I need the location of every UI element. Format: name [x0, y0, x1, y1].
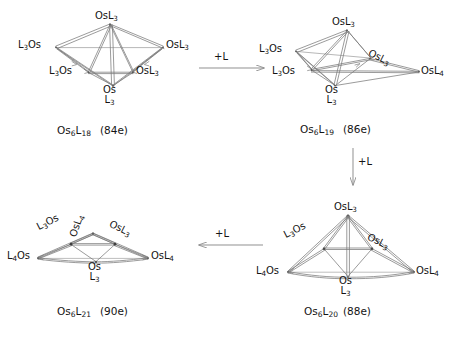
struct-1-vertex-apex: OsL3 [95, 11, 118, 22]
struct-1-vertex-right: OsL3 [166, 40, 189, 51]
struct-4-electron-count: (90e) [100, 305, 128, 317]
struct-2-vertex-left: L3Os [259, 44, 282, 55]
struct-1-vertex-bottom: Os L3 [103, 85, 116, 105]
struct-1-electron-count: (84e) [100, 124, 128, 136]
struct-3-electron-count: (88e) [343, 305, 371, 317]
struct-3-vertex-apex: OsL3 [334, 202, 357, 213]
struct-3-vertex-right: OsL4 [416, 266, 439, 277]
struct-4-vertex-bottom-l: L3 [88, 272, 101, 283]
struct-4-vertex-right: OsL4 [151, 251, 174, 262]
struct-2-vertex-bottom-l: L3 [325, 95, 338, 106]
struct-1-skeleton [55, 24, 164, 87]
struct-2-vertex-bottom: Os L3 [325, 85, 338, 105]
struct-3-vertex-bottom: Os L3 [339, 276, 352, 296]
struct-1-vertex-front-left: L3Os [49, 66, 72, 77]
struct-2-formula: Os6L19(86e) [300, 123, 371, 135]
struct-3-vertex-bottom-l: L3 [339, 286, 352, 297]
struct-3-formula: Os6L20(88e) [304, 305, 371, 317]
struct-4-skeleton [37, 233, 149, 264]
struct-2-vertex-apex: OsL3 [332, 17, 355, 28]
struct-1-formula: Os6L18(84e) [57, 124, 128, 136]
struct-4-formula: Os6L21(90e) [57, 305, 128, 317]
struct-4-vertex-left: L4Os [7, 251, 30, 262]
struct-4-vertex-bottom: Os L3 [88, 262, 101, 282]
arrow-right-label: +L [358, 156, 372, 167]
struct-3-vertex-left: L4Os [256, 266, 279, 277]
arrow-top-label: +L [214, 51, 228, 62]
struct-2-vertex-front-left: L3Os [272, 66, 295, 77]
struct-2-electron-count: (86e) [343, 123, 371, 135]
arrow-bottom-label: +L [215, 228, 229, 239]
struct-2-skeleton [295, 30, 420, 87]
struct-2-vertex-right: OsL4 [421, 66, 444, 77]
struct-1-vertex-front-right: OsL3 [136, 66, 159, 77]
struct-1-vertex-bottom-l: L3 [103, 95, 116, 106]
struct-3-skeleton [287, 215, 415, 279]
struct-1-vertex-left: L3Os [18, 40, 41, 51]
